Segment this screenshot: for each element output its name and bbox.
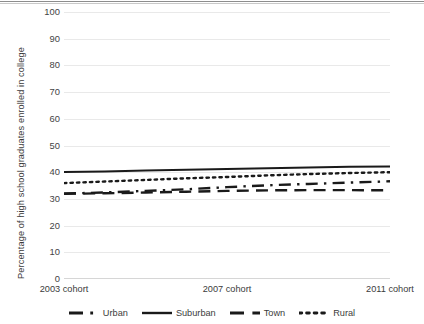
dotted-line-icon [299, 308, 329, 318]
x-axis-tick-labels: 2003 cohort2007 cohort2011 cohort [64, 284, 390, 300]
y-tick-label: 30 [14, 194, 60, 203]
y-tick-label: 100 [14, 7, 60, 16]
y-tick-label: 0 [14, 274, 60, 283]
x-tick-label: 2003 cohort [40, 284, 89, 294]
legend-item-town[interactable]: Town [230, 308, 285, 318]
y-tick-label: 70 [14, 87, 60, 96]
series-lines [64, 12, 390, 279]
y-tick-label: 60 [14, 114, 60, 123]
plot-area [64, 12, 390, 279]
y-tick-label: 80 [14, 60, 60, 69]
x-tick-label: 2007 cohort [203, 284, 252, 294]
y-tick-label: 10 [14, 247, 60, 256]
dashed-line-icon [230, 308, 260, 318]
y-tick-label: 50 [14, 141, 60, 150]
legend-label: Suburban [176, 308, 216, 318]
x-tick-label: 2011 cohort [366, 284, 414, 294]
line-chart: Percentage of high school graduates enro… [0, 0, 424, 324]
legend-item-urban[interactable]: Urban [69, 308, 128, 318]
legend-item-suburban[interactable]: Suburban [142, 308, 216, 318]
y-tick-label: 40 [14, 167, 60, 176]
chart-legend: UrbanSuburbanTownRural [0, 305, 424, 321]
legend-label: Town [264, 308, 285, 318]
series-line-town [64, 190, 390, 194]
solid-line-icon [142, 308, 172, 318]
y-tick-label: 20 [14, 221, 60, 230]
legend-label: Rural [333, 308, 355, 318]
legend-item-rural[interactable]: Rural [299, 308, 355, 318]
y-tick-label: 90 [14, 34, 60, 43]
y-axis-tick-labels: 1009080706050403020100 [14, 0, 60, 324]
series-line-suburban [64, 167, 390, 172]
dash-dot-line-icon [69, 308, 99, 318]
legend-label: Urban [103, 308, 128, 318]
series-line-rural [64, 172, 390, 183]
